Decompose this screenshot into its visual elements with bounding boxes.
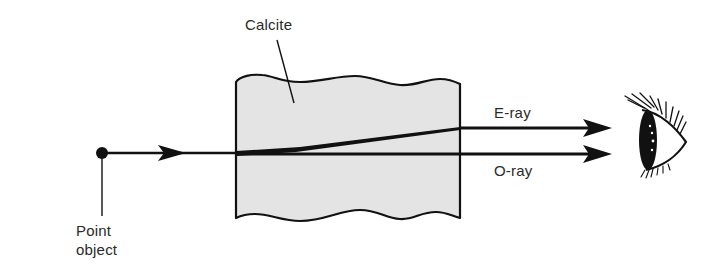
e-ray	[460, 119, 612, 137]
calcite-crystal	[236, 75, 460, 221]
incident-ray	[102, 145, 236, 161]
e-ray-label: E-ray	[494, 104, 531, 123]
point-object-label-line2: object	[76, 241, 117, 260]
o-ray-label: O-ray	[494, 162, 533, 181]
birefringence-diagram: Calcite E-ray O-ray Point object	[0, 0, 722, 278]
calcite-label: Calcite	[245, 16, 292, 35]
point-object-label-line1: Point	[76, 222, 117, 241]
point-object-label: Point object	[76, 222, 117, 260]
point-object-dot	[96, 147, 108, 159]
observer-eye-icon	[625, 93, 686, 178]
